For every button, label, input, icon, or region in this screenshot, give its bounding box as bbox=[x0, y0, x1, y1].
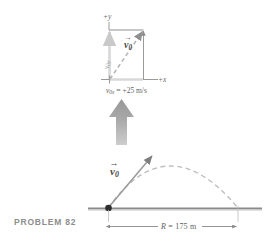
range-label: R = 175 m bbox=[161, 223, 196, 231]
zoom-arrow-shape bbox=[109, 99, 134, 145]
inset-vector-arrow-accent: → bbox=[124, 34, 132, 42]
physics-figure: +y +x v0y → v0 v0x = +25 m/s → v0 R = 17… bbox=[0, 0, 276, 248]
zoom-callout-arrow bbox=[109, 99, 134, 145]
v0y-label: v0y bbox=[103, 61, 112, 69]
v0x-equation-label: v0x = +25 m/s bbox=[106, 87, 147, 96]
main-v0-label: → v0 bbox=[110, 166, 119, 179]
inset-v0-label: → v0 bbox=[124, 40, 132, 52]
main-vector-arrow-accent: → bbox=[110, 159, 119, 168]
inset-velocity-diagram bbox=[101, 22, 158, 84]
problem-caption: PROBLEM 82 bbox=[14, 217, 76, 227]
figure-canvas bbox=[0, 0, 276, 248]
inset-x-axis-label: +x bbox=[158, 76, 166, 84]
trajectory-path bbox=[108, 166, 238, 208]
inset-y-axis-label: +y bbox=[103, 13, 111, 21]
